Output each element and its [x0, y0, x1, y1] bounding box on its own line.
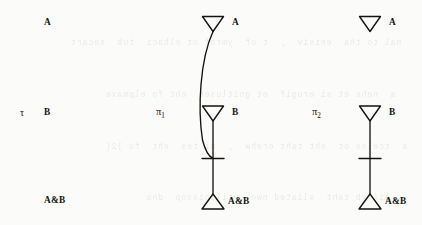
diagram-strokes	[0, 0, 422, 225]
pi1-label-a: A	[232, 17, 239, 27]
pi1-a-triangle-down	[203, 17, 224, 32]
legend-label-ab: A&B	[44, 195, 66, 205]
pi1-tree-name: π1	[156, 106, 165, 120]
pi2-label-b: B	[389, 107, 396, 117]
pi1-label-b: B	[232, 107, 239, 117]
pi2-a-triangle-down	[360, 17, 381, 32]
pi1-subscript: 1	[161, 112, 165, 120]
pi1-b-triangle-down	[203, 106, 224, 121]
proof-tree-figure: nal to tha enisiv , t of ymrof ot elbaci…	[0, 0, 422, 225]
pi1-curved-branch	[200, 32, 213, 159]
legend-label-a: A	[44, 17, 51, 27]
pi2-label-ab: A&B	[385, 196, 407, 206]
pi2-b-triangle-down	[360, 106, 381, 121]
pi1-label-ab: A&B	[228, 196, 250, 206]
pi2-subscript: 2	[317, 112, 321, 120]
legend-tau-symbol: τ	[20, 107, 24, 118]
pi2-tree-name: π2	[312, 106, 321, 120]
pi2-ab-triangle-up	[359, 194, 381, 209]
legend-label-b: B	[44, 107, 51, 117]
pi2-label-a: A	[389, 17, 396, 27]
pi1-ab-triangle-up	[202, 194, 224, 209]
